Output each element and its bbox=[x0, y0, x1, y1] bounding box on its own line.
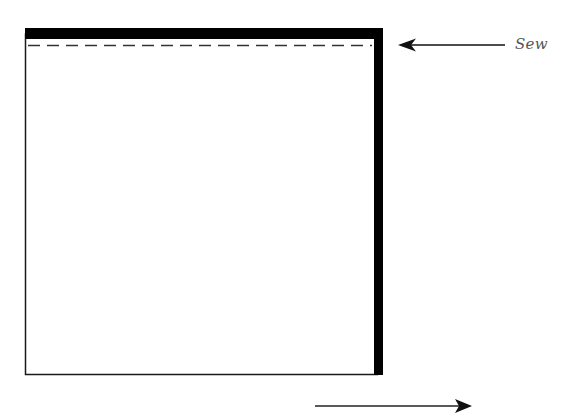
fabric-square bbox=[26, 34, 378, 375]
sew-arrow-icon bbox=[398, 39, 505, 52]
right-binding bbox=[374, 28, 383, 375]
sew-label: Sew bbox=[515, 35, 548, 53]
sewing-diagram bbox=[0, 0, 572, 415]
top-binding bbox=[25, 28, 383, 39]
direction-arrow-icon bbox=[315, 399, 472, 413]
